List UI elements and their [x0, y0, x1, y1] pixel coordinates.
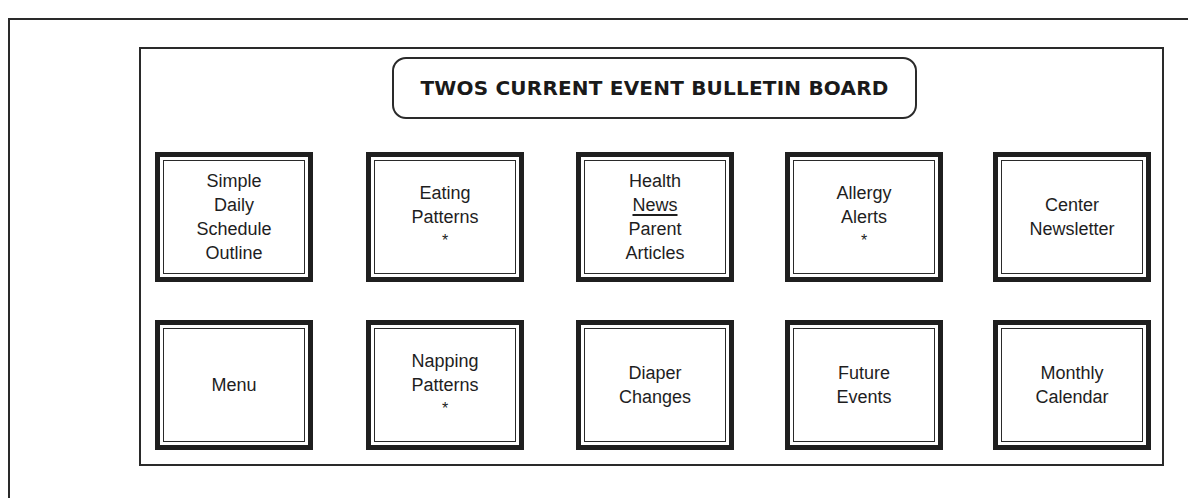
card-inner: Menu [163, 328, 305, 442]
card-eating-patterns: Eating Patterns * [366, 152, 524, 282]
card-inner: Simple Daily Schedule Outline [163, 160, 305, 274]
card-future-events: Future Events [785, 320, 943, 450]
card-line: Simple [206, 169, 261, 193]
card-line: Future [838, 361, 890, 385]
card-simple-daily-schedule-outline: Simple Daily Schedule Outline [155, 152, 313, 282]
card-line: Diaper [628, 361, 681, 385]
card-diaper-changes: Diaper Changes [576, 320, 734, 450]
asterisk-marker: * [442, 229, 448, 253]
card-line: Schedule [196, 217, 271, 241]
card-inner: Napping Patterns * [374, 328, 516, 442]
card-monthly-calendar: Monthly Calendar [993, 320, 1151, 450]
card-line: Outline [205, 241, 262, 265]
card-menu: Menu [155, 320, 313, 450]
card-line: Events [836, 385, 891, 409]
card-napping-patterns: Napping Patterns * [366, 320, 524, 450]
card-line: Newsletter [1029, 217, 1114, 241]
card-center-newsletter: Center Newsletter [993, 152, 1151, 282]
card-line: Patterns [411, 373, 478, 397]
card-inner: Center Newsletter [1001, 160, 1143, 274]
card-line: Center [1045, 193, 1099, 217]
card-line: Monthly [1040, 361, 1103, 385]
card-line: Napping [411, 349, 478, 373]
card-inner: Allergy Alerts * [793, 160, 935, 274]
board-title: TWOS CURRENT EVENT BULLETIN BOARD [420, 76, 888, 100]
card-inner: Future Events [793, 328, 935, 442]
card-line: Calendar [1035, 385, 1108, 409]
card-inner: Health News Parent Articles [584, 160, 726, 274]
card-line: Alerts [841, 205, 887, 229]
asterisk-marker: * [861, 229, 867, 253]
board-title-box: TWOS CURRENT EVENT BULLETIN BOARD [392, 57, 917, 119]
card-inner: Eating Patterns * [374, 160, 516, 274]
card-inner: Diaper Changes [584, 328, 726, 442]
card-line: Daily [214, 193, 254, 217]
card-health-news-parent-articles: Health News Parent Articles [576, 152, 734, 282]
card-line: Parent [628, 217, 681, 241]
card-line: Menu [211, 373, 256, 397]
asterisk-marker: * [442, 397, 448, 421]
card-line: Allergy [836, 181, 891, 205]
card-inner: Monthly Calendar [1001, 328, 1143, 442]
card-line: Changes [619, 385, 691, 409]
card-line: Patterns [411, 205, 478, 229]
card-line: Eating [419, 181, 470, 205]
card-line: Articles [625, 241, 684, 265]
card-line: Health [629, 169, 681, 193]
card-allergy-alerts: Allergy Alerts * [785, 152, 943, 282]
card-line-underlined: News [632, 193, 677, 217]
